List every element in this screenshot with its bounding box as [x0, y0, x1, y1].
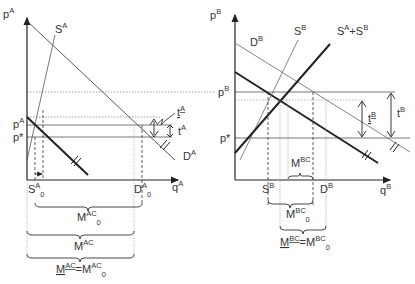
supply-label-b: SB: [294, 23, 306, 37]
axis-x-label-b: qB: [380, 182, 391, 196]
axis-x-label: qA: [172, 179, 183, 193]
excess-demand-b: [235, 72, 378, 163]
tariff-label-b: tB: [397, 105, 405, 119]
world-price-label-b: p*: [220, 132, 231, 144]
price-b-label: pB: [218, 84, 229, 98]
equation-label-b: MBC=MBC0: [280, 234, 330, 252]
brace-imports-b: [288, 173, 313, 179]
panel-b: pB DB SB SA+SB pB p* tB tB qB SB DB MBC …: [210, 7, 410, 252]
imports0-label: MAC0: [77, 209, 101, 227]
brace-imports0-b: [268, 200, 313, 208]
demand-label-b: DB: [250, 34, 263, 48]
supply-quantity-label: SA0: [28, 181, 45, 199]
axis-y-label: pA: [3, 6, 14, 20]
demand-label: DA: [183, 148, 196, 162]
panel-a: pA SA pA p* tA tA DA qA SA0 DA0 MAC0 MAC…: [3, 6, 215, 279]
imports0-label-b: MBC0: [286, 206, 310, 224]
callout-line: [158, 113, 175, 125]
imports-label: MAC: [74, 238, 94, 252]
tariff-min-label-b: tB: [368, 110, 376, 124]
imports-label-b: MBC: [291, 155, 311, 169]
brace-imports: [27, 231, 134, 239]
demand-curve-b: [235, 43, 410, 152]
brace-equation: [27, 254, 134, 262]
world-price-label: p*: [13, 131, 24, 143]
supply-curve-a: [27, 35, 55, 160]
tariff-label: tA: [178, 123, 186, 137]
trade-diagram: pA SA pA p* tA tA DA qA SA0 DA0 MAC0 MAC…: [0, 0, 415, 284]
demand-quantity-label: DA0: [134, 181, 151, 199]
supply-label: SA: [55, 21, 67, 35]
brace-equation-b: [280, 226, 326, 234]
axis-y-label-b: pB: [210, 7, 221, 21]
supply-quantity-label-b: SB: [262, 181, 274, 195]
agg-supply-curve: [235, 44, 330, 153]
price-a-label: pA: [13, 116, 24, 130]
tariff-min-label: tA: [177, 104, 185, 118]
agg-supply-label: SA+SB: [337, 23, 368, 37]
equation-label: MAC=MAC0: [56, 261, 106, 279]
demand-quantity-label-b: DB: [320, 181, 333, 195]
excess-demand-a: [27, 117, 88, 175]
